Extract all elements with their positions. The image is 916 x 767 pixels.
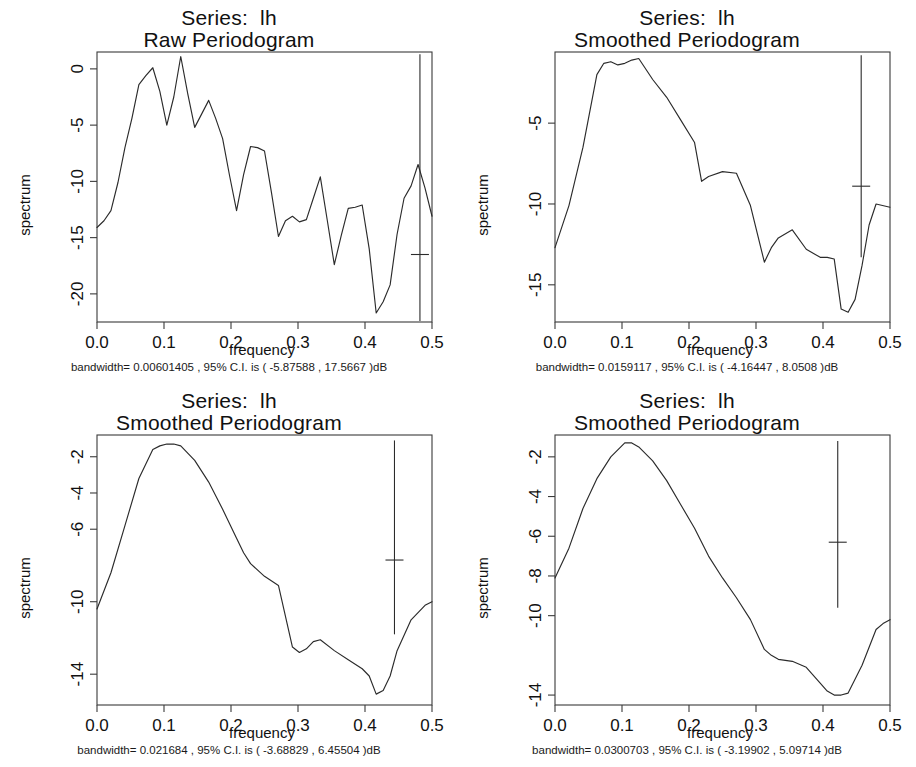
- figure-canvas: Series: lh Raw Periodogram 0.00.10.20.30…: [0, 0, 916, 767]
- y-axis-label: spectrum: [16, 557, 33, 619]
- x-tick-label: 0.4: [353, 716, 377, 735]
- x-tick-label: 0.4: [811, 333, 835, 352]
- y-tick-label: -15: [68, 225, 87, 250]
- x-tick-label: 0.1: [610, 333, 634, 352]
- y-tick-label: -10: [526, 192, 545, 217]
- spectrum-line: [555, 58, 890, 312]
- x-tick-label: 0.4: [353, 333, 377, 352]
- panel-raw-periodogram: Series: lh Raw Periodogram 0.00.10.20.30…: [0, 0, 458, 383]
- y-tick-label: -10: [526, 603, 545, 628]
- y-axis-label: spectrum: [474, 174, 491, 236]
- x-tick-label: 0.5: [420, 333, 444, 352]
- x-tick-label: 0.1: [610, 716, 634, 735]
- y-tick-label: -14: [526, 683, 545, 708]
- y-tick-label: 0: [68, 64, 87, 73]
- plot-area-1: 0.00.10.20.30.40.50-5-10-15-20 spectrum …: [0, 0, 458, 383]
- y-tick-label: -4: [68, 485, 87, 500]
- plot-area-4: 0.00.10.20.30.40.5-2-4-6-8-10-14 spectru…: [458, 383, 916, 766]
- panel-caption: bandwidth= 0.021684 , 95% C.I. is ( -3.6…: [0, 743, 458, 757]
- x-tick-label: 0.5: [420, 716, 444, 735]
- y-tick-label: -5: [526, 116, 545, 131]
- panel-smoothed-periodogram-2: Series: lh Smoothed Periodogram 0.00.10.…: [0, 383, 458, 766]
- y-tick-label: -10: [68, 589, 87, 614]
- x-tick-label: 0.0: [543, 716, 567, 735]
- x-tick-label: 0.1: [152, 716, 176, 735]
- x-tick-label: 0.1: [152, 333, 176, 352]
- y-tick-label: -6: [526, 529, 545, 544]
- y-tick-label: -10: [68, 169, 87, 194]
- panel-caption: bandwidth= 0.00601405 , 95% C.I. is ( -5…: [0, 360, 458, 374]
- y-tick-label: -4: [526, 489, 545, 504]
- x-tick-label: 0.4: [811, 716, 835, 735]
- y-axis-label: spectrum: [474, 557, 491, 619]
- plot-frame: [97, 52, 432, 322]
- x-axis-label: frequency: [229, 341, 295, 358]
- y-axis-label: spectrum: [16, 174, 33, 236]
- y-tick-label: -20: [68, 282, 87, 307]
- x-axis-label: frequency: [687, 724, 753, 741]
- spectrum-line: [555, 443, 890, 695]
- y-tick-label: -15: [526, 273, 545, 298]
- spectrum-line: [97, 57, 432, 314]
- plot-area-3: 0.00.10.20.30.40.5-2-4-6-10-14 spectrum …: [0, 383, 458, 766]
- plot-frame: [555, 52, 890, 322]
- y-tick-label: -2: [68, 449, 87, 464]
- x-tick-label: 0.0: [85, 333, 109, 352]
- x-axis-label: frequency: [687, 341, 753, 358]
- x-tick-label: 0.5: [878, 333, 902, 352]
- panel-smoothed-periodogram-1: Series: lh Smoothed Periodogram 0.00.10.…: [458, 0, 916, 383]
- spectrum-line: [97, 444, 432, 694]
- y-tick-label: -14: [68, 662, 87, 687]
- x-tick-label: 0.0: [85, 716, 109, 735]
- x-axis-label: frequency: [229, 724, 295, 741]
- y-tick-label: -2: [526, 449, 545, 464]
- panel-smoothed-periodogram-3: Series: lh Smoothed Periodogram 0.00.10.…: [458, 383, 916, 766]
- y-tick-label: -6: [68, 522, 87, 537]
- panel-caption: bandwidth= 0.0300703 , 95% C.I. is ( -3.…: [458, 743, 916, 757]
- panel-caption: bandwidth= 0.0159117 , 95% C.I. is ( -4.…: [458, 360, 916, 374]
- y-tick-label: -5: [68, 118, 87, 133]
- y-tick-label: -8: [526, 568, 545, 583]
- plot-frame: [97, 435, 432, 705]
- plot-frame: [555, 435, 890, 705]
- plot-area-2: 0.00.10.20.30.40.5-5-10-15 spectrum freq…: [458, 0, 916, 383]
- x-tick-label: 0.5: [878, 716, 902, 735]
- x-tick-label: 0.0: [543, 333, 567, 352]
